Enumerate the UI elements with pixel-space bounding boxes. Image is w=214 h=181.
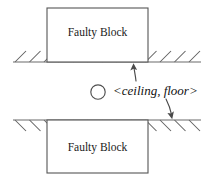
diagram-canvas: Faulty Block Faulty Block <ceiling, floo… bbox=[0, 0, 214, 181]
hatch-mark bbox=[160, 51, 171, 62]
hatch-mark bbox=[15, 51, 26, 62]
hatch-mark bbox=[175, 51, 186, 62]
hatch-mark bbox=[189, 120, 200, 131]
top-faulty-block-label: Faulty Block bbox=[68, 26, 128, 39]
ceiling-floor-annotation-label: <ceiling, floor> bbox=[113, 83, 198, 98]
floor-arrow bbox=[166, 99, 174, 119]
hatch-mark bbox=[30, 120, 41, 131]
open-circle-bullet-icon bbox=[91, 85, 105, 99]
faulty-block-diagram: Faulty Block Faulty Block <ceiling, floo… bbox=[0, 0, 214, 181]
hatch-mark bbox=[189, 51, 200, 62]
hatch-mark bbox=[15, 120, 26, 131]
hatch-mark bbox=[30, 51, 41, 62]
hatch-mark bbox=[160, 120, 171, 131]
ceiling-arrow bbox=[130, 63, 137, 81]
floor-arrow-shaft bbox=[166, 99, 172, 115]
bottom-faulty-block-label: Faulty Block bbox=[68, 141, 128, 154]
hatch-mark bbox=[175, 120, 186, 131]
